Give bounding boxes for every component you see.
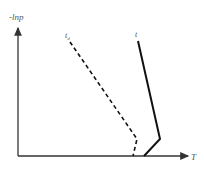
x-axis-label: T <box>191 152 197 162</box>
curve-td <box>70 42 137 156</box>
curve-t <box>138 41 160 156</box>
y-axis-label: -lnp <box>9 12 24 22</box>
curve-t-label: t <box>135 30 138 39</box>
diagram-canvas: -lnp T t td <box>0 0 204 171</box>
curve-td-label: td <box>65 31 70 41</box>
